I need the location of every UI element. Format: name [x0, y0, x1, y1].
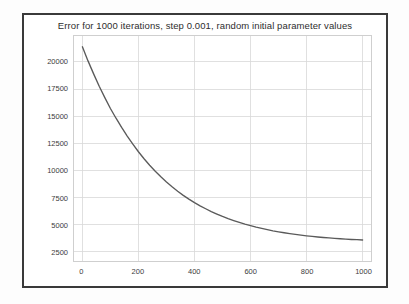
figure-root: Error for 1000 iterations, step 0.001, r… — [0, 0, 409, 304]
x-tick-label: 600 — [244, 267, 257, 276]
y-tick-label: 20000 — [24, 57, 68, 66]
y-tick-label: 7500 — [24, 193, 68, 202]
plot-area — [73, 35, 372, 262]
chart-title: Error for 1000 iterations, step 0.001, r… — [24, 20, 386, 31]
y-tick-label: 2500 — [24, 248, 68, 257]
x-tick-label: 0 — [79, 267, 83, 276]
figure-inner: Error for 1000 iterations, step 0.001, r… — [24, 15, 386, 286]
y-tick-label: 15000 — [24, 111, 68, 120]
y-tick-label: 5000 — [24, 220, 68, 229]
x-tick-label: 200 — [132, 267, 145, 276]
y-tick-label: 17500 — [24, 84, 68, 93]
x-tick-label: 400 — [188, 267, 201, 276]
x-tick-label: 800 — [301, 267, 314, 276]
y-tick-label: 10000 — [24, 166, 68, 175]
error-curve — [74, 36, 371, 261]
x-tick-label: 1000 — [355, 267, 372, 276]
figure-frame: Error for 1000 iterations, step 0.001, r… — [22, 13, 388, 288]
y-tick-label: 12500 — [24, 139, 68, 148]
